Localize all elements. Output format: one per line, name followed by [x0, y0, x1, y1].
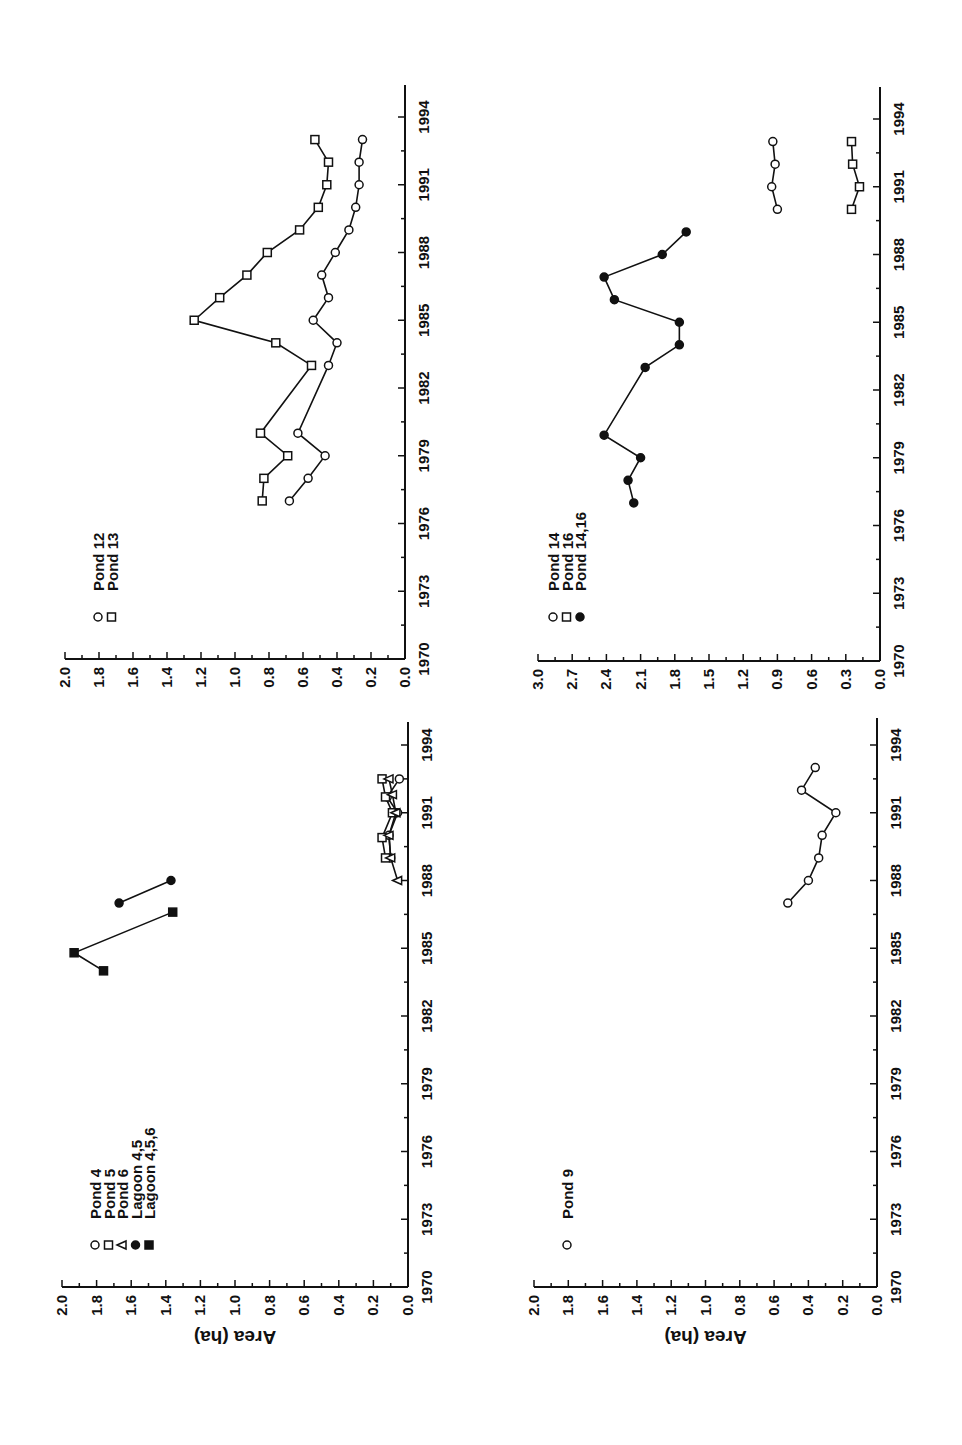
value-tick-label: 1.5 [700, 669, 717, 690]
filled-circle-marker-icon [682, 228, 690, 236]
legend-item: Pond 9 [559, 1169, 576, 1249]
open-circle-marker-icon [359, 136, 367, 144]
value-tick-label: 1.6 [124, 667, 141, 688]
open-circle-marker-icon [395, 775, 403, 783]
open-circle-marker-icon [309, 316, 317, 324]
open-square-marker-icon [260, 474, 268, 482]
open-circle-marker-icon [294, 429, 302, 437]
series-line [772, 142, 778, 210]
value-tick-label: 0.0 [399, 1295, 416, 1316]
time-tick-label: 1991 [887, 796, 904, 829]
value-tick-label: 2.1 [632, 669, 649, 690]
value-tick-label: 3.0 [529, 669, 546, 690]
legend-label: Pond 14,16 [572, 512, 589, 591]
legend-item: Lagoon 4,5,6 [141, 1127, 158, 1249]
series-pond-16 [848, 138, 864, 214]
time-tick-label: 1985 [415, 304, 432, 337]
open-circle-marker-icon [321, 452, 329, 460]
legend-label: Pond 13 [104, 533, 121, 591]
open-circle-marker-icon [331, 249, 339, 257]
time-tick-label: 1988 [887, 864, 904, 897]
filled-circle-marker-icon [167, 877, 175, 885]
open-circle-marker-icon [333, 339, 341, 347]
time-tick-label: 1982 [890, 373, 907, 406]
legend-item: Pond 13 [104, 533, 121, 621]
series-pond-12 [285, 136, 366, 505]
series-pond-6 [384, 775, 402, 885]
time-tick-label: 1979 [890, 441, 907, 474]
time-tick-label: 1976 [418, 1135, 435, 1168]
value-tick-label: 1.2 [734, 669, 751, 690]
time-tick-label: 1976 [890, 509, 907, 542]
legend-label: Pond 9 [559, 1169, 576, 1219]
open-square-marker-icon [314, 203, 322, 211]
open-triangle-marker-icon [393, 877, 402, 885]
open-square-marker-icon [563, 613, 571, 621]
open-circle-marker-icon [345, 226, 353, 234]
open-circle-marker-icon [798, 786, 806, 794]
series-pond-4 [383, 775, 403, 862]
time-tick-label: 1988 [890, 238, 907, 271]
filled-circle-marker-icon [641, 363, 649, 371]
open-circle-marker-icon [304, 474, 312, 482]
rotated-multi-panel-chart: 0.00.20.40.60.81.01.21.41.61.82.01970197… [0, 0, 962, 1445]
value-tick-label: 0.2 [834, 1295, 851, 1316]
value-tick-label: 0.6 [765, 1295, 782, 1316]
time-tick-label: 1982 [415, 371, 432, 404]
open-circle-marker-icon [773, 205, 781, 213]
time-tick-label: 1991 [415, 168, 432, 201]
time-tick-label: 1973 [890, 577, 907, 610]
open-square-marker-icon [848, 205, 856, 213]
open-square-marker-icon [258, 497, 266, 505]
series-line [194, 140, 328, 501]
series-pond-14 [768, 138, 782, 214]
filled-circle-marker-icon [576, 613, 584, 621]
time-tick-label: 1991 [890, 170, 907, 203]
open-square-marker-icon [216, 294, 224, 302]
open-square-marker-icon [243, 271, 251, 279]
time-tick-label: 1973 [418, 1203, 435, 1236]
series-pond-14-16 [600, 228, 690, 507]
open-square-marker-icon [311, 136, 319, 144]
value-tick-label: 1.4 [157, 1294, 174, 1316]
value-tick-label: 1.4 [628, 1294, 645, 1316]
filled-circle-marker-icon [600, 273, 608, 281]
time-tick-label: 1970 [890, 644, 907, 677]
y-axis-title: Area (ha) [664, 1327, 746, 1348]
open-circle-marker-icon [94, 613, 102, 621]
time-tick-label: 1994 [415, 100, 432, 134]
panel-ponds-12-13: 0.00.20.40.60.81.01.21.41.61.82.01970197… [56, 85, 432, 688]
open-square-marker-icon [848, 138, 856, 146]
value-tick-label: 0.0 [396, 667, 413, 688]
open-square-marker-icon [257, 429, 265, 437]
value-tick-label: 0.4 [799, 1294, 816, 1316]
time-tick-label: 1982 [887, 999, 904, 1032]
open-square-marker-icon [296, 226, 304, 234]
open-circle-marker-icon [318, 271, 326, 279]
value-tick-label: 1.0 [226, 1295, 243, 1316]
series-lagoon-4-5 [115, 877, 175, 908]
value-tick-label: 0.2 [362, 667, 379, 688]
time-tick-label: 1988 [415, 236, 432, 269]
open-circle-marker-icon [355, 181, 363, 189]
filled-circle-marker-icon [675, 318, 683, 326]
value-tick-label: 0.0 [868, 1295, 885, 1316]
filled-circle-marker-icon [132, 1241, 140, 1249]
value-tick-label: 1.8 [90, 667, 107, 688]
value-tick-label: 0.4 [330, 1294, 347, 1316]
open-circle-marker-icon [769, 138, 777, 146]
time-tick-label: 1982 [418, 999, 435, 1032]
value-tick-label: 2.7 [563, 669, 580, 690]
value-tick-label: 2.0 [525, 1295, 542, 1316]
filled-square-marker-icon [70, 949, 78, 957]
value-tick-label: 1.8 [559, 1295, 576, 1316]
open-triangle-marker-icon [117, 1241, 126, 1249]
value-tick-label: 0.8 [260, 667, 277, 688]
open-circle-marker-icon [325, 294, 333, 302]
value-tick-label: 2.4 [597, 668, 614, 690]
time-tick-label: 1979 [415, 439, 432, 472]
legend-label: Lagoon 4,5,6 [141, 1127, 158, 1219]
open-circle-marker-icon [804, 877, 812, 885]
open-circle-marker-icon [355, 158, 363, 166]
value-tick-label: 1.4 [158, 666, 175, 688]
